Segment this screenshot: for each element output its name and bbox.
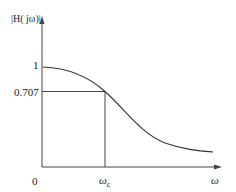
y-axis-label: |H( jω)|	[11, 13, 41, 25]
y-tick-1: 1	[33, 59, 39, 71]
x-tick-wc: ωc	[99, 174, 110, 191]
magnitude-curve	[43, 67, 213, 152]
x-tick-wc-symbol: ω	[99, 174, 107, 186]
y-tick-0707: 0.707	[14, 86, 39, 98]
x-axis-arrow-icon	[214, 165, 222, 170]
x-axis-label: ω	[211, 174, 219, 186]
x-tick-wc-subscript: c	[107, 180, 111, 189]
y-axis-label-text: |H( jω)|	[11, 13, 41, 24]
origin-label: 0	[32, 175, 38, 187]
